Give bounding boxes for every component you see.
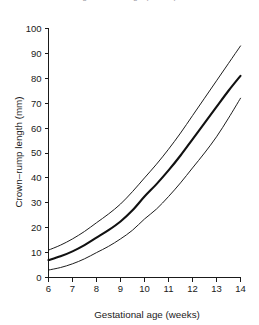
x-tick-label-6: 6 [46, 283, 51, 294]
y-tick-label-20: 20 [31, 222, 42, 233]
crown-rump-length-chart: 0102030405060708090100 67891011121314 Ge… [0, 0, 259, 325]
x-tick-label-7: 7 [70, 283, 75, 294]
y-tick-label-30: 30 [31, 197, 42, 208]
y-tick-label-0: 0 [36, 272, 41, 283]
y-tick-label-60: 60 [31, 123, 42, 134]
y-tick-label-10: 10 [31, 247, 42, 258]
y-tick-label-100: 100 [26, 23, 42, 34]
y-axis-tick-labels: 0102030405060708090100 [26, 23, 42, 283]
axes-group: 0102030405060708090100 67891011121314 [26, 23, 246, 294]
x-tick-label-8: 8 [94, 283, 99, 294]
y-axis-title: Crown–rump length (mm) [13, 96, 24, 207]
centile-curve-2 [49, 98, 241, 270]
y-tick-label-40: 40 [31, 172, 42, 183]
x-tick-label-13: 13 [211, 283, 222, 294]
y-tick-label-70: 70 [31, 98, 42, 109]
x-axis-title: Gestational age (weeks) [94, 309, 200, 320]
y-tick-label-50: 50 [31, 147, 42, 158]
centile-curve-1 [49, 76, 241, 260]
axis-lines [49, 29, 241, 278]
y-axis-tick-marks [45, 29, 49, 278]
x-tick-label-11: 11 [164, 283, 174, 294]
y-tick-label-80: 80 [31, 73, 42, 84]
x-tick-label-10: 10 [139, 283, 150, 294]
x-tick-label-9: 9 [118, 283, 123, 294]
y-tick-label-90: 90 [31, 48, 42, 59]
x-axis-tick-labels: 67891011121314 [46, 283, 246, 294]
x-tick-label-12: 12 [187, 283, 198, 294]
centile-curves-group [49, 46, 241, 270]
x-tick-label-14: 14 [235, 283, 246, 294]
x-axis-tick-marks [49, 278, 241, 282]
figure-container: gestational age (weeks) 0102030405060708… [0, 0, 259, 325]
